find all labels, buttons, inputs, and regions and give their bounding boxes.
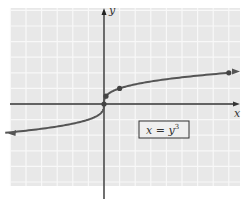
data-point bbox=[226, 70, 231, 75]
x-axis-label: x bbox=[234, 107, 241, 120]
grid-background bbox=[10, 8, 240, 186]
graph: y x x = y3 bbox=[0, 0, 248, 214]
y-axis-label: y bbox=[108, 4, 116, 17]
data-point bbox=[101, 101, 106, 106]
equation-label: x = y3 bbox=[146, 123, 179, 137]
data-point bbox=[103, 94, 108, 99]
data-point bbox=[117, 86, 122, 91]
